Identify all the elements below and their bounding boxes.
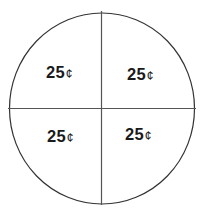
cent-symbol: ¢: [145, 129, 152, 143]
quadrant-label-bottom-left: 25¢: [47, 128, 73, 145]
quadrant-label-bottom-right: 25¢: [125, 126, 151, 143]
quadrant-value: 25: [127, 65, 146, 83]
cent-symbol: ¢: [66, 67, 73, 81]
quadrant-value: 25: [46, 63, 65, 81]
quadrant-label-top-right: 25¢: [127, 66, 153, 83]
quarters-circle-diagram: [0, 0, 207, 212]
quadrant-value: 25: [125, 125, 144, 143]
quadrant-label-top-left: 25¢: [46, 64, 72, 81]
cent-symbol: ¢: [67, 131, 74, 145]
quadrant-value: 25: [47, 127, 66, 145]
cent-symbol: ¢: [147, 69, 154, 83]
